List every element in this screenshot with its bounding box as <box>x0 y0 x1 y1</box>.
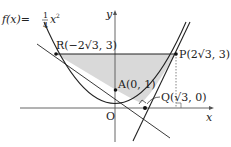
point-p <box>174 52 178 56</box>
point-a <box>114 88 118 92</box>
point-p-label: P(2√3, 3) <box>179 48 230 61</box>
graph: f(x)= 1 4 x 2 y x O R(−2√3, 3) P(2√3, 3)… <box>0 0 231 147</box>
function-label: f(x)= <box>1 13 30 26</box>
origin-label: O <box>106 110 115 123</box>
point-q <box>143 106 147 110</box>
point-q-label: Q(√3, 0) <box>161 91 207 104</box>
function-frac-num: 1 <box>43 11 48 20</box>
function-frac-den: 4 <box>43 21 48 30</box>
function-exp: 2 <box>56 12 60 19</box>
y-axis-arrow-icon <box>113 10 117 15</box>
point-r <box>54 52 58 56</box>
q-leader-line <box>147 97 160 104</box>
shaded-region <box>56 54 176 103</box>
x-axis-label: x <box>206 111 213 124</box>
x-axis-arrow-icon <box>209 106 214 110</box>
point-a-label: A(0, 1) <box>117 78 156 91</box>
y-axis-label: y <box>105 8 113 21</box>
point-r-label: R(−2√3, 3) <box>56 39 117 52</box>
